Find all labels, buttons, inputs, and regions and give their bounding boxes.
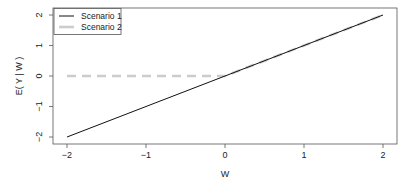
- legend-label-scenario-1: Scenario 1: [81, 11, 122, 21]
- x-tick-label: −2: [62, 150, 72, 160]
- y-tick-label: 2: [34, 12, 44, 17]
- x-tick-label: 1: [301, 150, 306, 160]
- y-tick-labels: 2 1 0 −1 −2: [34, 12, 44, 142]
- y-tick-label: 1: [34, 43, 44, 48]
- y-axis-label: E( Y | W ): [14, 57, 24, 96]
- y-tick-label: −1: [34, 101, 44, 111]
- x-tick-label: 2: [380, 150, 385, 160]
- x-axis: [67, 144, 383, 148]
- x-tick-label: 0: [222, 150, 227, 160]
- x-tick-labels: −2 −1 0 1 2: [62, 150, 386, 160]
- x-tick-label: −1: [141, 150, 151, 160]
- chart: −2 −1 0 1 2 W 2 1 0 −1 −2 E( Y | W ) Sce…: [0, 0, 413, 189]
- legend-label-scenario-2: Scenario 2: [81, 22, 122, 32]
- y-tick-label: −2: [34, 132, 44, 142]
- y-axis: [49, 15, 53, 137]
- x-axis-label: W: [221, 169, 230, 179]
- legend: Scenario 1 Scenario 2: [54, 9, 122, 35]
- y-tick-label: 0: [34, 73, 44, 78]
